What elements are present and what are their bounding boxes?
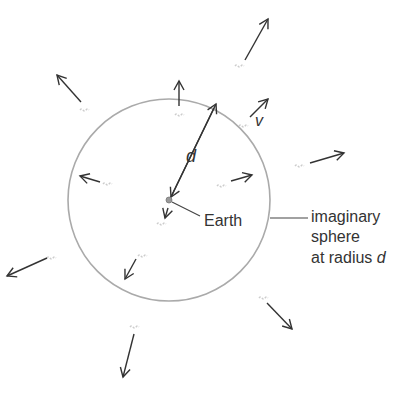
sphere-label-prefix: at radius <box>311 249 377 266</box>
sphere-label-line3: at radius d <box>311 249 387 266</box>
galaxy-icon <box>130 326 139 328</box>
sphere-label-line2: sphere <box>311 228 360 245</box>
galaxy-bottom-outer <box>123 326 139 377</box>
velocity-arrow-icon <box>57 75 81 102</box>
galaxy-top-right-far <box>235 19 268 67</box>
galaxy-icon <box>47 257 56 259</box>
velocity-arrow-icon <box>165 208 168 218</box>
galaxy-right-inner <box>217 175 252 187</box>
velocity-arrow-icon <box>245 19 268 60</box>
galaxy-left-outer <box>7 257 56 276</box>
galaxy-bottom-inner <box>125 255 147 279</box>
galaxy-icon <box>235 65 244 67</box>
galaxy-bottom-near-earth <box>157 208 168 225</box>
expanding-universe-diagram: d v Earth imaginary sphere at radius d <box>0 0 397 393</box>
sphere-label-radius-var: d <box>377 249 387 266</box>
galaxy-top-left-outer <box>57 75 89 111</box>
velocity-arrow-icon <box>123 334 134 377</box>
galaxy-right-edge <box>239 99 268 127</box>
galaxy-icon <box>138 255 147 257</box>
galaxy-icon <box>239 125 248 127</box>
velocity-arrow-icon <box>231 175 252 181</box>
velocity-arrow-icon <box>310 153 344 163</box>
distance-label: d <box>186 146 197 166</box>
velocity-arrow-icon <box>7 258 47 276</box>
galaxy-icon <box>175 114 184 116</box>
galaxy-icon <box>295 165 304 167</box>
galaxy-icon <box>157 223 166 225</box>
galaxy-arrows-group <box>7 19 344 377</box>
galaxy-right-outer <box>295 153 344 167</box>
velocity-arrow-icon <box>80 176 100 182</box>
earth-leader-line <box>172 202 200 216</box>
velocity-label: v <box>255 112 264 129</box>
sphere-label-line1: imaginary <box>311 208 380 225</box>
galaxy-icon <box>103 183 112 185</box>
galaxy-left-inner <box>80 176 112 185</box>
velocity-arrow-icon <box>267 303 292 329</box>
galaxy-icon <box>217 185 226 187</box>
galaxy-icon <box>259 297 268 299</box>
galaxy-bottom-right-outer <box>259 297 292 329</box>
earth-label: Earth <box>204 212 242 229</box>
velocity-arrow-icon <box>125 259 136 279</box>
galaxy-icon <box>80 109 89 111</box>
earth-dot <box>166 197 172 203</box>
